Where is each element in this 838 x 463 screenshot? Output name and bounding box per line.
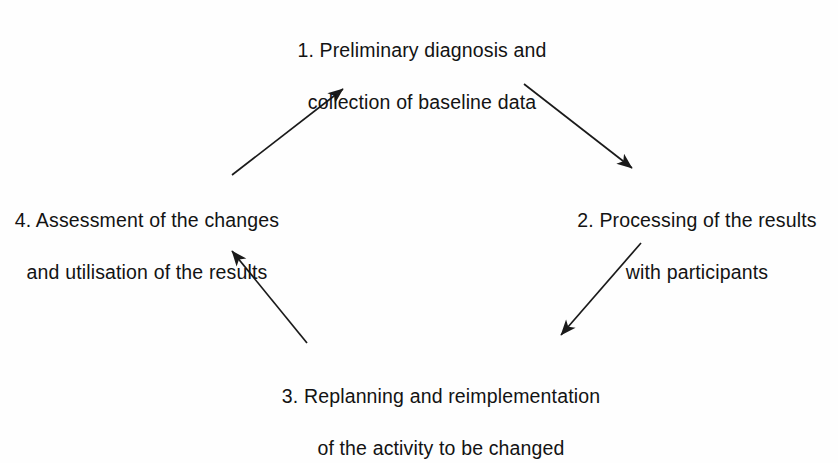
cycle-node-2-line-1: 2. Processing of the results bbox=[556, 208, 838, 234]
cycle-node-3: 3. Replanning and reimplementation of th… bbox=[262, 358, 620, 463]
cycle-node-2: 2. Processing of the results with partic… bbox=[556, 182, 838, 312]
cycle-node-2-line-2: with participants bbox=[556, 260, 838, 286]
cycle-node-3-line-1: 3. Replanning and reimplementation bbox=[262, 384, 620, 410]
cycle-node-4-line-1: 4. Assessment of the changes bbox=[2, 208, 292, 234]
cycle-node-4-line-2: and utilisation of the results bbox=[2, 260, 292, 286]
cycle-node-4: 4. Assessment of the changes and utilisa… bbox=[2, 182, 292, 312]
cycle-node-1-line-1: 1. Preliminary diagnosis and bbox=[262, 38, 582, 64]
cycle-node-3-line-2: of the activity to be changed bbox=[262, 436, 620, 462]
cycle-node-1-line-2: collection of baseline data bbox=[262, 90, 582, 116]
cycle-node-1: 1. Preliminary diagnosis and collection … bbox=[262, 12, 582, 142]
